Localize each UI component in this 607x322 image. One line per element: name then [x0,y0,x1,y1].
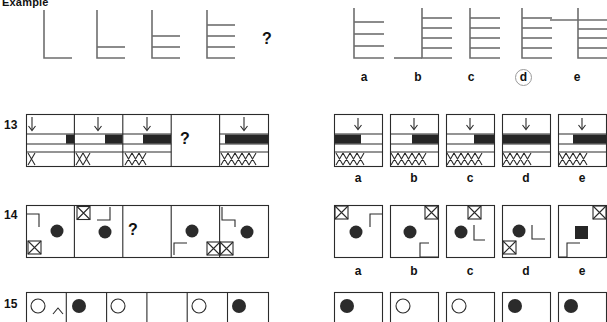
question-13-option-label-a[interactable]: a [348,171,368,185]
example-option-label-d[interactable]: d [515,69,532,86]
question-13-option-b[interactable] [391,115,439,167]
question-14-option-label-c[interactable]: c [460,264,480,278]
question-14-option-e[interactable] [559,206,607,258]
question-13-option-label-c[interactable]: c [460,171,480,185]
question-15-options [334,292,607,322]
question-14-option-label-d[interactable]: d [516,264,536,278]
question-14-option-label-a[interactable]: a [348,264,368,278]
question-15-option-b[interactable] [391,293,439,322]
question-15-option-a[interactable] [335,293,383,322]
question-15-option-e[interactable] [559,293,607,322]
question-number-13: 13 [4,118,17,132]
example-option-e-figure[interactable] [550,8,607,58]
example-option-a-figure[interactable] [354,8,384,58]
example-option-label-b[interactable]: b [408,70,428,84]
example-option-b-figure[interactable] [394,8,452,58]
question-number-14: 14 [4,208,17,222]
example-option-c-figure[interactable] [470,8,500,58]
example-figure-3 [152,10,180,58]
question-13-option-a[interactable] [335,115,383,167]
question-14-option-label-e[interactable]: e [572,264,592,278]
example-option-d-figure[interactable] [522,8,552,58]
question-number-15: 15 [4,297,17,311]
question-14-option-label-b[interactable]: b [404,264,424,278]
question-14-option-a[interactable] [335,206,383,258]
example-option-label-c[interactable]: c [461,70,481,84]
question-14-options [334,205,607,263]
question-14-question-mark: ? [120,221,146,239]
question-15-option-d[interactable] [503,293,551,322]
question-13-option-label-d[interactable]: d [516,171,536,185]
question-13-option-d[interactable] [503,115,551,167]
example-option-figures [330,0,607,70]
question-15-prompt [26,292,276,322]
question-14-option-c[interactable] [447,206,495,258]
question-13-option-label-e[interactable]: e [572,171,592,185]
question-14-prompt [26,205,276,263]
question-13-option-label-b[interactable]: b [404,171,424,185]
question-14-option-b[interactable] [391,206,439,258]
example-figure-2 [97,10,125,58]
question-13-option-e[interactable] [559,115,607,167]
question-13-option-c[interactable] [447,115,495,167]
example-option-label-e[interactable]: e [567,70,587,84]
question-14-option-d[interactable] [503,206,551,258]
example-figure-4 [207,10,235,58]
question-13-options [334,114,607,170]
example-option-label-a[interactable]: a [354,70,374,84]
example-question-mark: ? [255,30,279,48]
question-13-question-mark: ? [172,130,198,148]
example-figure-1 [44,10,72,58]
question-15-option-c[interactable] [447,293,495,322]
question-15-cell-2-circle [72,299,86,313]
question-13-prompt [26,114,276,170]
question-15-cell-6-circle [232,299,246,313]
